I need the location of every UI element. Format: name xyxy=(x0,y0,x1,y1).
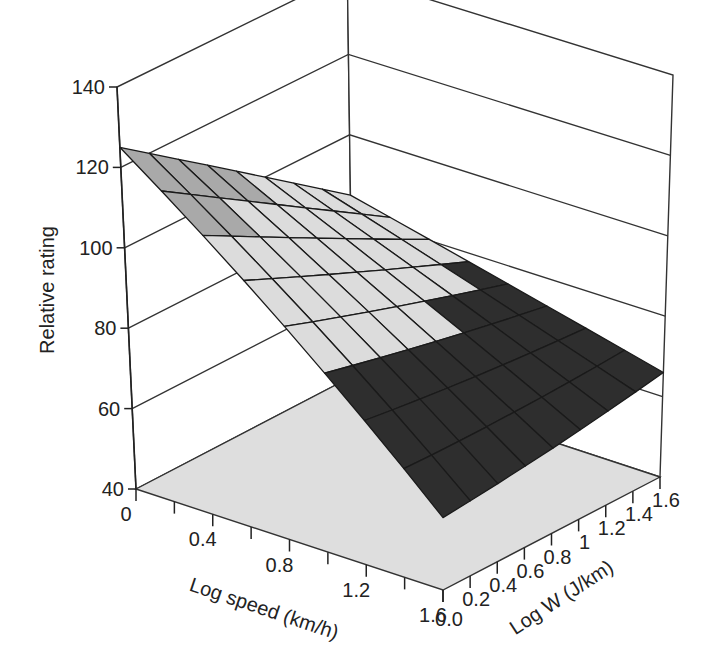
z-tick-label: 120 xyxy=(75,156,108,178)
z-axis-title: Relative rating xyxy=(36,226,58,354)
z-tick-label: 40 xyxy=(102,478,124,500)
x-tick-label: 1.2 xyxy=(342,579,370,601)
z-tick-label: 80 xyxy=(94,317,116,339)
z-tick-label: 60 xyxy=(98,398,120,420)
x-axis-title: Log speed (km/h) xyxy=(187,573,342,643)
z-tick-label: 100 xyxy=(79,237,112,259)
surface-chart: 40608010012014000.40.81.21.60.00.20.40.6… xyxy=(0,0,710,662)
y-tick-label: 1.6 xyxy=(652,489,680,511)
y-tick-label: 1 xyxy=(579,531,590,553)
x-tick-label: 0.8 xyxy=(266,554,294,576)
y-tick-label: 1.2 xyxy=(598,517,626,539)
y-tick-label: 0.4 xyxy=(489,574,517,596)
y-tick-label: 0.0 xyxy=(435,608,463,630)
z-tick-label: 140 xyxy=(72,76,105,98)
y-tick-label: 0.8 xyxy=(544,546,572,568)
y-tick-label: 1.4 xyxy=(625,503,653,525)
y-tick-label: 0.2 xyxy=(462,588,490,610)
x-tick-label: 0 xyxy=(120,503,131,525)
x-tick-label: 0.4 xyxy=(189,528,217,550)
y-tick-label: 0.6 xyxy=(516,560,544,582)
